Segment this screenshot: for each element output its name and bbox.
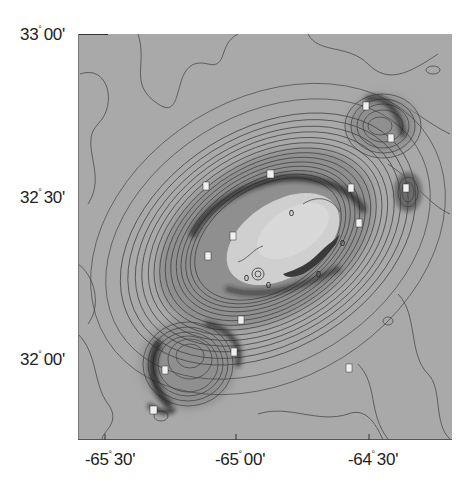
contour-label: 0 bbox=[244, 273, 249, 283]
x-label-min: 30' bbox=[377, 450, 398, 469]
x-label-min: 00' bbox=[244, 450, 265, 469]
contour-label: 0 bbox=[266, 280, 271, 290]
x-label-deg: -65 bbox=[85, 450, 109, 469]
bathymetry-map: 0 0 0 0 0 bbox=[78, 34, 452, 440]
y-label-32-30: 32°30' bbox=[20, 187, 65, 208]
degree-symbol: ° bbox=[109, 449, 112, 459]
degree-symbol: ° bbox=[38, 24, 41, 34]
contour-label: 0 bbox=[316, 269, 321, 279]
x-label-deg: -65 bbox=[215, 450, 239, 469]
degree-symbol: ° bbox=[38, 187, 41, 197]
y-label-33-00: 33°00' bbox=[20, 24, 65, 45]
y-label-min: 30' bbox=[44, 188, 65, 207]
y-label-deg: 33 bbox=[20, 25, 38, 44]
y-label-min: 00' bbox=[44, 25, 65, 44]
contour-label: 0 bbox=[289, 208, 294, 218]
degree-symbol: ° bbox=[38, 349, 41, 359]
x-label-65-30: -65°30' bbox=[85, 449, 135, 470]
degree-symbol: ° bbox=[239, 449, 242, 459]
contour-label: 0 bbox=[340, 238, 345, 248]
x-label-deg: -64 bbox=[348, 450, 372, 469]
x-label-min: 30' bbox=[114, 450, 135, 469]
x-label-64-30: -64°30' bbox=[348, 449, 398, 470]
y-label-min: 00' bbox=[44, 350, 65, 369]
y-label-deg: 32 bbox=[20, 188, 38, 207]
y-label-deg: 32 bbox=[20, 350, 38, 369]
y-label-32-00: 32°00' bbox=[20, 349, 65, 370]
x-label-65-00: -65°00' bbox=[215, 449, 265, 470]
degree-symbol: ° bbox=[372, 449, 375, 459]
